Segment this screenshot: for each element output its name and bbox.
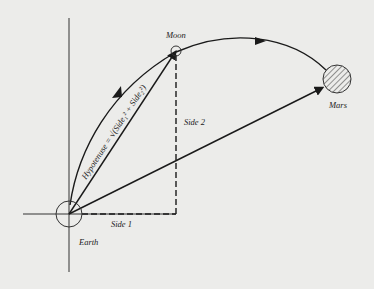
earth-label: Earth (78, 237, 98, 247)
moon-label: Moon (165, 30, 186, 40)
hypotenuse-line (69, 54, 174, 214)
trajectory-diagram: Moon Mars Earth Side 1 Side 2 Hypotenuse… (0, 0, 374, 289)
mars-label: Mars (328, 100, 348, 110)
side-2-label: Side 2 (184, 117, 206, 127)
arc-arrow-top (255, 37, 266, 45)
arc-arrow-left (112, 86, 122, 98)
side-1-label: Side 1 (111, 219, 132, 229)
mars-circle (323, 65, 351, 93)
